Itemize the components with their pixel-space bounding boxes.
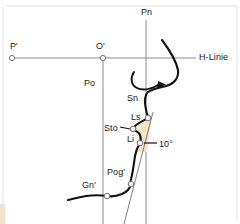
label-po: Po — [84, 79, 95, 88]
landmark-marker-sto — [130, 126, 136, 132]
landmark-marker-li — [137, 140, 143, 146]
landmark-marker-p-prime — [9, 55, 14, 60]
label-p-prime: P' — [10, 42, 18, 51]
label-h-linie: H-Linie — [199, 53, 228, 62]
label-ls: Ls — [131, 113, 141, 122]
frame-corner-accent — [0, 204, 5, 224]
landmark-marker-ls — [145, 115, 151, 121]
label-angle: 10° — [159, 140, 173, 149]
cephalometric-profile-figure: P' O' Pn H-Linie Po Sn Ls Sto Li Pog' Gn… — [0, 0, 240, 224]
landmark-marker-gn-prime — [104, 193, 110, 199]
label-sn: Sn — [127, 94, 138, 103]
label-pog-prime: Pog' — [107, 168, 125, 177]
label-o-prime: O' — [96, 42, 105, 51]
label-li: Li — [127, 135, 134, 144]
figure-background — [0, 0, 240, 224]
landmark-marker-pog-prime — [128, 181, 134, 187]
figure-canvas — [0, 0, 240, 224]
label-gn-prime: Gn' — [82, 181, 96, 190]
label-pn: Pn — [141, 8, 152, 17]
landmark-marker-o-prime — [100, 55, 105, 60]
label-sto: Sto — [104, 124, 118, 133]
